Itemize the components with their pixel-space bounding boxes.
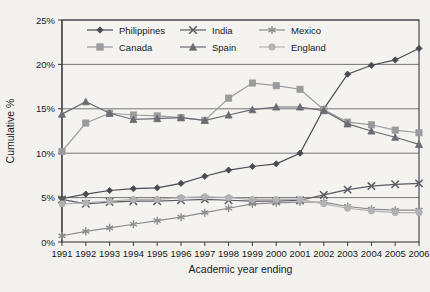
x-axis-tick-label: 2006 xyxy=(408,248,429,259)
data-point-circle xyxy=(273,196,279,202)
data-point-circle xyxy=(202,194,208,200)
data-point-square xyxy=(226,95,232,101)
chart-container: 0%5%10%15%20%25%199119921993199419951996… xyxy=(0,0,430,292)
data-point-circle xyxy=(178,195,184,201)
y-axis-tick-label: 15% xyxy=(36,103,56,114)
data-point-circle xyxy=(107,198,113,204)
x-axis-tick-label: 1993 xyxy=(99,248,120,259)
x-axis-tick-label: 2004 xyxy=(361,248,382,259)
data-point-circle xyxy=(130,196,136,202)
data-point-circle xyxy=(297,196,303,202)
data-point-circle xyxy=(83,200,89,206)
x-axis-tick-label: 1992 xyxy=(75,248,96,259)
data-point-circle xyxy=(321,201,327,207)
data-point-square xyxy=(392,127,398,133)
y-axis: 0%5%10%15%20%25% xyxy=(36,15,62,248)
legend-label: India xyxy=(212,25,233,36)
legend-label: Mexico xyxy=(291,25,321,36)
data-point-square xyxy=(297,86,303,92)
data-point-circle xyxy=(269,44,275,50)
data-point-square xyxy=(83,120,89,126)
x-axis-tick-label: 1999 xyxy=(242,248,263,259)
x-axis: 1991199219931994199519961997199819992000… xyxy=(51,242,429,259)
y-axis-title: Cumulative % xyxy=(4,99,16,164)
data-point-square xyxy=(416,130,422,136)
data-point-circle xyxy=(59,201,65,207)
legend-label: Canada xyxy=(119,42,153,53)
y-axis-tick-label: 5% xyxy=(41,192,55,203)
x-axis-tick-label: 2000 xyxy=(266,248,287,259)
x-axis-tick-label: 1991 xyxy=(51,248,72,259)
line-chart: 0%5%10%15%20%25%199119921993199419951996… xyxy=(0,0,430,292)
data-point-square xyxy=(249,80,255,86)
y-axis-tick-label: 25% xyxy=(36,15,56,26)
legend-label: Philippines xyxy=(119,25,165,36)
data-point-square xyxy=(97,44,103,50)
y-axis-tick-label: 10% xyxy=(36,148,56,159)
legend-label: England xyxy=(291,42,326,53)
x-axis-tick-label: 1994 xyxy=(123,248,144,259)
data-point-square xyxy=(273,83,279,89)
data-point-circle xyxy=(154,196,160,202)
x-axis-tick-label: 2005 xyxy=(385,248,406,259)
x-axis-tick-label: 2001 xyxy=(289,248,310,259)
x-axis-tick-label: 1996 xyxy=(170,248,191,259)
x-axis-tick-label: 2002 xyxy=(313,248,334,259)
x-axis-tick-label: 1998 xyxy=(218,248,239,259)
data-point-square xyxy=(59,148,65,154)
x-axis-title: Academic year ending xyxy=(189,263,293,275)
data-point-circle xyxy=(249,196,255,202)
x-axis-tick-label: 1997 xyxy=(194,248,215,259)
data-point-circle xyxy=(368,208,374,214)
data-point-circle xyxy=(345,205,351,211)
y-axis-tick-label: 0% xyxy=(41,237,55,248)
data-point-circle xyxy=(226,195,232,201)
legend-label: Spain xyxy=(212,42,236,53)
y-axis-tick-label: 20% xyxy=(36,59,56,70)
data-point-circle xyxy=(416,210,422,216)
data-point-circle xyxy=(392,210,398,216)
x-axis-tick-label: 1995 xyxy=(147,248,168,259)
x-axis-tick-label: 2003 xyxy=(337,248,358,259)
